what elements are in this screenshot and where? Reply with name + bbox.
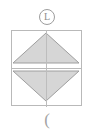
- center-spine: [46, 30, 47, 107]
- circled-l-icon-label: L: [40, 10, 54, 24]
- diagram-canvas: L (: [0, 0, 94, 133]
- footer-glyph: (: [0, 110, 94, 130]
- circled-l-icon: L: [39, 9, 55, 25]
